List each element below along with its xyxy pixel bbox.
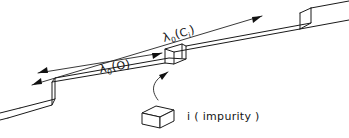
terrace-ribbon <box>0 1 349 120</box>
impurity-description: ( impurity ) <box>194 110 259 123</box>
step-riser-front <box>165 49 174 63</box>
lambda-ci-arrowhead-right <box>252 16 262 23</box>
figure-container: λ0(Ci) λ0(O) i( <box>0 0 349 138</box>
impurity-pointer-arrowhead <box>159 72 168 80</box>
lambda-o-arrowhead-right <box>152 53 162 59</box>
lambda-ci-label: λ0(Ci) <box>161 22 197 46</box>
lambda-o-label: λ0(O) <box>98 57 132 78</box>
lambda-o-dimension: λ0(O) <box>38 53 162 78</box>
lambda-ci-dimension: λ0(Ci) <box>32 16 262 85</box>
impurity-symbol: i <box>187 110 190 123</box>
ribbon-tail-left <box>0 118 8 120</box>
diagram-canvas: λ0(Ci) λ0(O) i( <box>0 0 349 138</box>
impurity-caption-text: i( impurity ) <box>187 110 260 123</box>
impurity-cube <box>142 106 174 128</box>
ribbon-front-edge <box>8 13 300 118</box>
lambda-o-arrowhead-left <box>38 67 48 73</box>
impurity-marker <box>142 72 174 128</box>
ribbon-tail-left-upper <box>0 108 20 113</box>
ribbon-tail-right <box>311 1 349 8</box>
step-riser-top <box>165 44 186 49</box>
lambda-o-close-paren: ) <box>124 57 131 72</box>
lambda-ci-arrow-shaft <box>32 16 262 85</box>
impurity-caption: i( impurity ) <box>187 110 260 123</box>
ribbon-right-step-face <box>300 8 311 13</box>
lambda-ci-arrowhead-left <box>32 78 42 85</box>
step-riser-bottom-join <box>174 59 186 64</box>
